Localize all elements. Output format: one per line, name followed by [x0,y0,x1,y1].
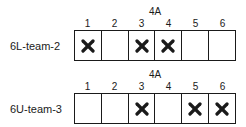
x-mark-icon [81,39,95,53]
x-mark-icon [188,102,202,116]
x-mark-icon [135,102,149,116]
slot-cell [182,31,209,60]
slot-cell [129,94,156,123]
row-label: 6L-team-2 [10,40,60,52]
x-mark-icon [161,39,175,53]
column-number: 3 [128,19,155,29]
column-number: 4 [155,82,182,92]
group-title: 4A [145,70,165,80]
slot-grid [74,93,236,124]
column-number: 6 [209,82,236,92]
column-number: 5 [182,82,209,92]
slot-cell [182,94,209,123]
column-number: 1 [74,82,101,92]
x-mark-icon [215,102,229,116]
row-label: 6U-team-3 [10,103,62,115]
x-mark-icon [135,39,149,53]
column-number: 4 [155,19,182,29]
group-title: 4A [145,7,165,17]
column-number: 3 [128,82,155,92]
column-number: 6 [209,19,236,29]
team-group: 4A1234566U-team-3 [0,63,246,126]
team-group: 4A1234566L-team-2 [0,0,246,63]
slot-cell [102,31,129,60]
slot-cell [129,31,156,60]
slot-cell [209,31,235,60]
slot-cell [155,31,182,60]
column-number: 2 [101,19,128,29]
column-number: 1 [74,19,101,29]
column-number: 5 [182,19,209,29]
slot-cell [75,94,102,123]
slot-grid [74,30,236,61]
slot-cell [209,94,235,123]
column-number: 2 [101,82,128,92]
slot-cell [155,94,182,123]
slot-cell [102,94,129,123]
slot-cell [75,31,102,60]
